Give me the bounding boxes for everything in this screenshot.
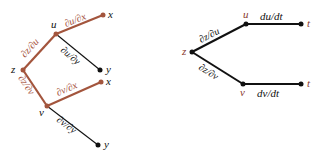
leaf-v-x xyxy=(99,80,104,85)
leaf-bottom-t xyxy=(299,82,304,87)
label-leaf-v-y: y xyxy=(103,138,109,150)
label-leaf-u-y: y xyxy=(105,63,111,75)
label-edge-v-x: ∂v/∂x xyxy=(54,79,79,98)
label-u: u xyxy=(51,18,57,30)
label-leaf-u-x: x xyxy=(107,8,113,20)
label-v: v xyxy=(39,106,44,118)
node-z xyxy=(190,50,195,55)
leaf-top-t xyxy=(299,22,304,27)
label-edge-z-u: ∂z/∂u xyxy=(18,36,41,59)
node-v xyxy=(45,104,50,109)
right-tree: z u v t t ∂z/∂u ∂z/∂v du/dt dv/dt xyxy=(181,8,311,99)
label-edge-u-y: ∂u/∂y xyxy=(59,44,83,67)
label-leaf-v-x: x xyxy=(105,75,111,87)
leaf-v-y xyxy=(96,143,101,148)
leaf-u-y xyxy=(98,68,103,73)
left-tree: z u v x y x y ∂z/∂u ∂z/∂v ∂u/∂x ∂u/∂y ∂v… xyxy=(10,8,113,150)
label-edge-z-v: ∂z/∂v xyxy=(16,73,37,97)
label-z: z xyxy=(181,45,187,57)
label-leaf-top: t xyxy=(307,17,311,29)
label-z: z xyxy=(10,63,16,75)
label-edge-z-u: ∂z/∂u xyxy=(197,25,221,45)
tree-diagrams: z u v x y x y ∂z/∂u ∂z/∂v ∂u/∂x ∂u/∂y ∂v… xyxy=(0,0,325,160)
leaf-u-x xyxy=(101,13,106,18)
label-leaf-bottom: t xyxy=(307,77,311,89)
node-z xyxy=(21,68,26,73)
label-edge-z-v: ∂z/∂v xyxy=(197,61,221,82)
label-edge-u-t: du/dt xyxy=(260,10,284,22)
label-edge-v-y: ∂v/∂y xyxy=(55,114,79,136)
node-u xyxy=(54,32,59,37)
label-u: u xyxy=(243,8,249,20)
label-v: v xyxy=(240,86,245,98)
node-u xyxy=(244,22,249,27)
label-edge-v-t: dv/dt xyxy=(257,87,280,99)
